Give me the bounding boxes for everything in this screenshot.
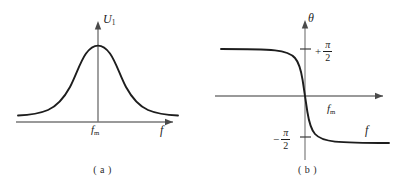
y-tick-label-plus-half-pi: + π 2 (315, 40, 332, 63)
panel-a-caption: ( a ) (0, 164, 205, 175)
x-tick-label-fm-a: fm (91, 124, 99, 135)
fraction-pi-over-two-positive: π 2 (323, 40, 332, 63)
x-tick-label-fm-b: fm (327, 103, 335, 114)
x-axis-label-a: f (160, 124, 163, 136)
panel-b: θ f fm + π 2 − π 2 ( b ) (205, 0, 410, 192)
y-axis-arrowhead (95, 21, 101, 30)
x-axis-arrowhead (375, 93, 383, 99)
y-axis-label-a: U1 (103, 13, 115, 25)
y-axis-label-b: θ (308, 12, 314, 24)
figure-root: U1 f fm ( a ) θ f fm + π (0, 0, 410, 192)
x-axis-label-b: f (365, 124, 368, 136)
y-tick-label-minus-half-pi: − π 2 (273, 128, 290, 151)
minus-sign: − (273, 134, 279, 145)
x-axis-arrowhead (165, 119, 173, 126)
panel-a: U1 f fm ( a ) (0, 0, 205, 192)
fraction-pi-over-two-negative: π 2 (281, 128, 290, 151)
plus-sign: + (315, 46, 321, 57)
panel-b-caption: ( b ) (205, 164, 410, 175)
